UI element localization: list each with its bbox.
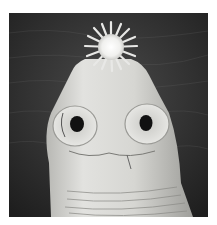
right-sucker-opening bbox=[140, 115, 153, 131]
left-sucker-opening bbox=[70, 116, 84, 132]
right-sucker bbox=[125, 104, 169, 144]
scolex-illustration bbox=[9, 13, 208, 217]
tapeworm-scolex-photo bbox=[9, 13, 208, 217]
left-sucker bbox=[53, 106, 97, 146]
